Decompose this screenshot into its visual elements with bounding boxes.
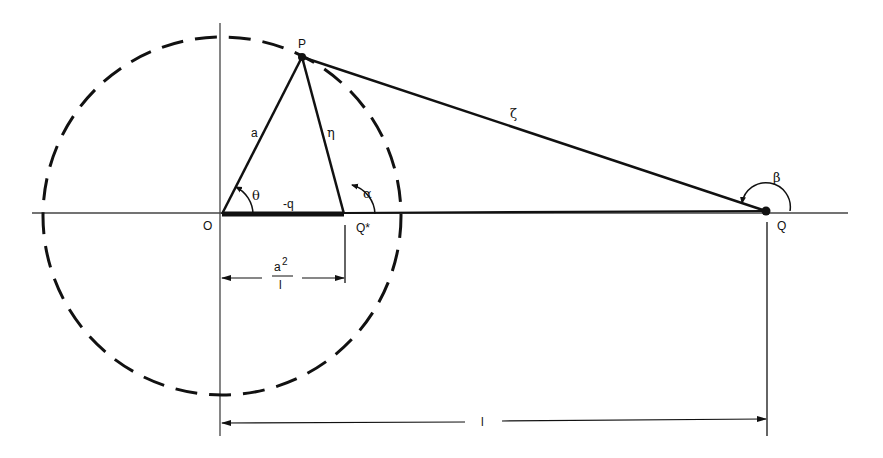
svg-text:l: l — [279, 278, 282, 292]
label-Q: Q — [777, 219, 786, 233]
label-a: a — [251, 126, 258, 140]
label-minus-q: -q — [283, 197, 294, 211]
dim-line-charge-distance-left — [222, 422, 465, 423]
label-Qstar: Q* — [356, 221, 370, 235]
dim-label-charge-distance: l — [481, 415, 484, 429]
segment-O-P — [222, 57, 302, 214]
label-eta: η — [327, 125, 335, 140]
label-alpha: α — [363, 186, 372, 201]
svg-text:a: a — [274, 260, 281, 274]
label-beta: β — [773, 170, 781, 185]
point-P — [298, 53, 306, 61]
dim-line-charge-distance-right — [502, 419, 766, 421]
label-theta: θ — [252, 188, 260, 203]
svg-text:2: 2 — [282, 256, 288, 267]
dim-label-image-distance: a 2 l — [272, 256, 293, 292]
label-P: P — [298, 37, 306, 51]
label-zeta: ζ — [510, 106, 517, 121]
label-O: O — [203, 219, 212, 233]
point-Q — [762, 207, 771, 216]
angle-theta-arc — [236, 187, 253, 214]
image-charge-diagram: P O Q* Q a η ζ -q θ α β a 2 l l — [0, 0, 883, 458]
